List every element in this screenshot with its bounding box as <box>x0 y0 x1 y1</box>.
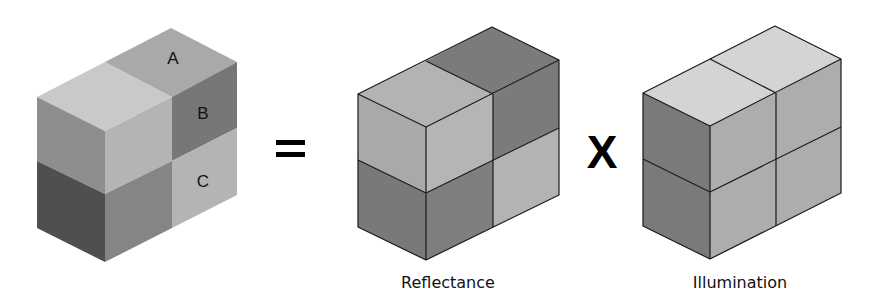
observed-block: A B C <box>37 28 237 262</box>
label-b: B <box>197 104 208 123</box>
illumination-block: Illumination <box>643 26 841 292</box>
reflectance-caption: Reflectance <box>401 273 495 292</box>
equals-bar-top <box>276 140 305 145</box>
equals-bar-bottom <box>276 152 305 157</box>
reflectance-illumination-diagram: A B C Reflectance X <box>0 0 884 302</box>
illumination-caption: Illumination <box>693 273 787 292</box>
times-sign: X <box>587 126 618 178</box>
label-c: C <box>197 172 209 191</box>
label-a: A <box>167 49 179 68</box>
equals-sign <box>276 140 305 157</box>
reflectance-block: Reflectance <box>358 27 559 292</box>
